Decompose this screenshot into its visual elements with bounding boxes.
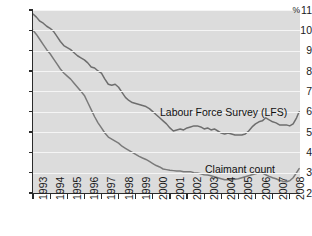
gridline-7: [33, 91, 300, 92]
gridline-4: [33, 152, 300, 153]
x-tick-label-2007: 2007: [277, 177, 289, 200]
x-tick-label-2005: 2005: [242, 177, 254, 200]
y-tickmark-9: [29, 50, 34, 51]
x-tickmark-2005: [238, 194, 239, 199]
x-tick-label-2004: 2004: [225, 177, 237, 200]
gridline-9: [33, 51, 300, 52]
y-axis-unit: %: [293, 5, 301, 15]
x-tick-label-2006: 2006: [260, 177, 272, 200]
x-tickmark-2000: [152, 194, 153, 199]
x-tick-label-2000: 2000: [157, 177, 169, 200]
x-tick-label-1994: 1994: [54, 177, 66, 200]
x-tick-label-2003: 2003: [208, 177, 220, 200]
x-tickmark-2004: [221, 194, 222, 199]
gridline-8: [33, 71, 300, 72]
x-tickmark-1994: [50, 194, 51, 199]
x-tickmark-1996: [84, 194, 85, 199]
x-tickmark-1999: [135, 194, 136, 199]
x-tickmark-2007: [272, 194, 273, 199]
x-tick-label-1999: 1999: [140, 177, 152, 200]
y-tick-label-7: 7: [282, 86, 312, 96]
x-tickmark-1995: [67, 194, 68, 199]
y-tick-label-8: 8: [282, 66, 312, 76]
x-tickmark-2001: [169, 194, 170, 199]
y-tickmark-7: [29, 91, 34, 92]
y-tick-label-9: 9: [282, 45, 312, 55]
y-tick-label-10: 10: [282, 25, 312, 35]
x-tick-label-1995: 1995: [71, 177, 83, 200]
gridline-11: [33, 10, 300, 11]
gridline-5: [33, 132, 300, 133]
x-tickmark-1998: [118, 194, 119, 199]
y-tick-label-4: 4: [282, 147, 312, 157]
x-tickmark-2003: [204, 194, 205, 199]
y-tickmark-3: [29, 172, 34, 173]
y-tickmark-10: [29, 30, 34, 31]
y-tickmark-11: [29, 9, 34, 10]
unemployment-line-chart: %111098765432 19931994199519961997199819…: [0, 0, 312, 236]
x-tick-label-1998: 1998: [123, 177, 135, 200]
series-label-lfs: Labour Force Survey (LFS): [160, 106, 287, 118]
x-tickmark-2002: [186, 194, 187, 199]
x-tickmark-2008: [289, 194, 290, 199]
y-tickmark-4: [29, 152, 34, 153]
x-tickmark-2006: [255, 194, 256, 199]
y-tickmark-8: [29, 70, 34, 71]
x-tickmark-1993: [32, 194, 33, 199]
y-tickmark-5: [29, 131, 34, 132]
gridline-10: [33, 30, 300, 31]
x-tick-label-2001: 2001: [174, 177, 186, 200]
x-tick-label-1997: 1997: [105, 177, 117, 200]
y-tickmark-6: [29, 111, 34, 112]
y-axis-line: [32, 10, 33, 194]
series-label-claimant-count: Claimant count: [205, 163, 275, 175]
x-tick-label-1993: 1993: [37, 177, 49, 200]
x-tickmark-1997: [101, 194, 102, 199]
x-tick-label-2008: 2008: [294, 177, 306, 200]
y-tick-label-5: 5: [282, 127, 312, 137]
x-tick-label-2002: 2002: [191, 177, 203, 200]
y-tick-label-11: %11: [282, 5, 312, 15]
x-tick-label-1996: 1996: [88, 177, 100, 200]
